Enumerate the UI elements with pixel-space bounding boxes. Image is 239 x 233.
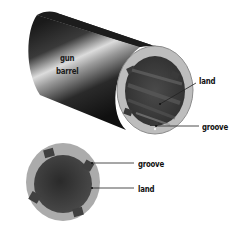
groove-label-3d: groove bbox=[202, 121, 228, 132]
barrel-cross-section bbox=[26, 143, 100, 221]
diagram-graphic bbox=[0, 0, 239, 233]
rifling-diagram: gun barrel land groove groove land bbox=[0, 0, 239, 233]
groove-label-section: groove bbox=[138, 158, 164, 169]
gun-barrel-label-line2: barrel bbox=[56, 65, 78, 76]
barrel-end-face bbox=[117, 46, 193, 134]
land-label-section: land bbox=[138, 183, 154, 194]
land-label-3d: land bbox=[199, 75, 215, 86]
gun-barrel-label-line1: gun bbox=[60, 52, 74, 63]
